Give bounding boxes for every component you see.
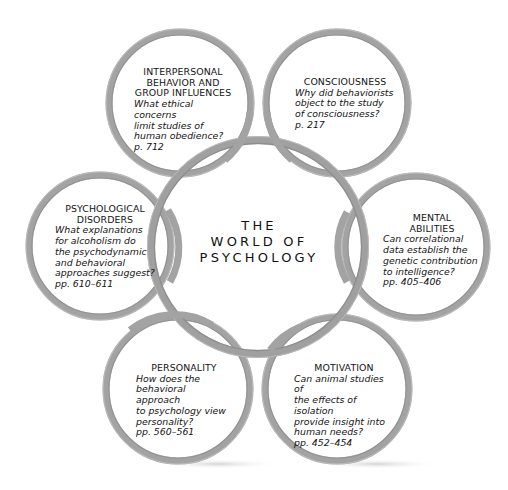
center-title-line: WORLD OF: [178, 234, 340, 250]
node-psychological-disorders: PSYCHOLOGICAL DISORDERS What explanation…: [55, 204, 155, 290]
node-pages: p. 217: [295, 120, 395, 131]
node-question: Why did behaviorists object to the study…: [295, 88, 395, 120]
node-question: What ethical concerns limit studies of h…: [134, 99, 232, 142]
node-question: Can animal studies of the effects of iso…: [294, 374, 394, 438]
node-motivation: MOTIVATION Can animal studies of the eff…: [294, 363, 394, 449]
node-question: Can correlational data establish the gen…: [383, 234, 481, 277]
node-title: PSYCHOLOGICAL DISORDERS: [55, 204, 155, 225]
center-title-line: THE: [178, 218, 340, 234]
node-pages: pp. 452–454: [294, 438, 394, 449]
node-pages: p. 712: [134, 142, 232, 153]
center-title: THE WORLD OF PSYCHOLOGY: [178, 218, 340, 266]
node-pages: pp. 610–611: [55, 279, 155, 290]
node-question: What explanations for alcoholism do the …: [55, 225, 155, 279]
center-title-line: PSYCHOLOGY: [178, 250, 340, 266]
node-pages: pp. 405–406: [383, 277, 481, 288]
node-consciousness: CONSCIOUSNESS Why did behaviorists objec…: [295, 77, 395, 131]
node-title: MENTAL ABILITIES: [383, 213, 481, 234]
node-title: INTERPERSONAL BEHAVIOR AND GROUP INFLUEN…: [134, 67, 232, 99]
node-question: How does the behavioral approach to psyc…: [136, 374, 232, 428]
node-interpersonal: INTERPERSONAL BEHAVIOR AND GROUP INFLUEN…: [134, 67, 232, 153]
node-pages: pp. 560–561: [136, 427, 232, 438]
node-personality: PERSONALITY How does the behavioral appr…: [136, 363, 232, 438]
node-mental-abilities: MENTAL ABILITIES Can correlational data …: [383, 213, 481, 288]
